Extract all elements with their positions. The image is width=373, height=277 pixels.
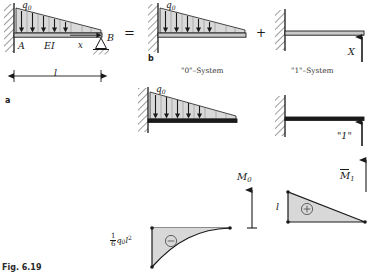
m0-node-left	[150, 226, 154, 230]
fixed-support-wall-1-mid	[275, 95, 285, 137]
figure-caption: Fig. 6.19	[2, 264, 42, 272]
x-coordinate-label-a: x	[78, 41, 83, 50]
distributed-load-shape-0	[160, 8, 245, 33]
system-0-mid-group	[138, 87, 237, 133]
fixed-support-wall-0-mid	[138, 87, 148, 133]
stiffness-label-a: EI	[44, 41, 55, 51]
m0-node-bottom	[150, 265, 154, 269]
m0-area	[152, 228, 230, 267]
unit-force-label: "1"	[337, 131, 352, 141]
m1-area	[288, 192, 365, 222]
moment-diagram-0-group	[150, 190, 257, 269]
moment-1-title: M1	[340, 171, 355, 182]
m1-node-top	[286, 190, 290, 194]
distributed-load-shape-0-mid	[150, 92, 236, 119]
distributed-load-shape-a	[16, 8, 101, 33]
m1-node-right	[363, 220, 367, 224]
m1-node-bottom	[286, 220, 290, 224]
panel-label-a: a	[5, 97, 10, 105]
beam-0-mid	[148, 119, 237, 122]
fixed-support-wall-0	[148, 3, 158, 53]
figure-svg	[0, 0, 373, 277]
force-x-label: X	[348, 47, 355, 57]
moment-0-value: 1 6 q0l2	[110, 233, 132, 249]
node-label-a: A	[18, 41, 25, 51]
load-label-0-mid: q0	[156, 85, 166, 95]
system-0-caption: "0"–System	[181, 67, 224, 74]
moment-1-ordinate-label: l	[276, 202, 279, 212]
node-label-b: B	[107, 33, 114, 43]
fixed-support-wall-a	[4, 3, 14, 53]
system-0-group	[148, 3, 246, 53]
m0-node-right	[228, 226, 232, 230]
beam-1-mid	[285, 117, 364, 120]
moment-diagram-1-group	[286, 160, 367, 224]
plus-operator: +	[256, 26, 266, 40]
beam-1	[285, 31, 364, 35]
panel-label-b: b	[148, 55, 154, 63]
span-label-a: l	[54, 68, 57, 78]
equals-operator: =	[124, 25, 135, 40]
load-label-0: q0	[166, 1, 176, 11]
beam-0	[158, 33, 246, 37]
moment-0-title: M0	[237, 172, 252, 183]
figure-6-19: q0 A EI x B l a = + q0 b "0"–System X "1…	[0, 0, 373, 277]
fixed-support-wall-1	[275, 9, 285, 51]
load-label-a: q0	[22, 1, 32, 11]
span-dimension-a	[14, 70, 101, 82]
system-1-caption: "1"–System	[291, 67, 334, 74]
